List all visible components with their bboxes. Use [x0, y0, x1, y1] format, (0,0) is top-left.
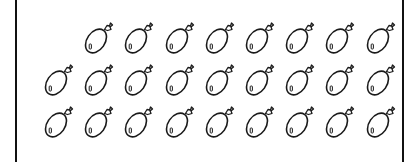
balloon — [204, 62, 236, 98]
balloon-icon — [365, 20, 397, 56]
balloon — [123, 20, 155, 56]
balloon-icon — [284, 20, 316, 56]
balloon-icon — [244, 104, 276, 140]
balloon — [324, 104, 356, 140]
balloon-icon — [244, 62, 276, 98]
balloon-icon — [284, 62, 316, 98]
balloon — [284, 62, 316, 98]
balloon — [164, 104, 196, 140]
balloon — [284, 104, 316, 140]
balloon-icon — [204, 20, 236, 56]
balloon — [83, 20, 115, 56]
balloon-icon — [83, 20, 115, 56]
balloon — [204, 20, 236, 56]
balloon-icon — [284, 104, 316, 140]
balloon — [43, 104, 75, 140]
balloon-row-3 — [43, 104, 413, 144]
balloon — [324, 20, 356, 56]
balloon-icon — [324, 62, 356, 98]
balloon-icon — [83, 104, 115, 140]
balloon-icon — [123, 104, 155, 140]
balloon — [164, 62, 196, 98]
balloon — [244, 20, 276, 56]
balloon-icon — [164, 104, 196, 140]
balloon-icon — [324, 20, 356, 56]
balloon-icon — [83, 62, 115, 98]
balloon-icon — [244, 20, 276, 56]
balloon-icon — [324, 104, 356, 140]
balloon — [365, 20, 397, 56]
frame-left-border — [15, 0, 17, 162]
balloon — [83, 62, 115, 98]
balloon-icon — [123, 20, 155, 56]
balloon — [123, 104, 155, 140]
balloon-icon — [43, 104, 75, 140]
balloon — [204, 104, 236, 140]
balloon — [284, 20, 316, 56]
balloon — [43, 62, 75, 98]
balloon — [244, 104, 276, 140]
balloon-icon — [43, 62, 75, 98]
balloon — [164, 20, 196, 56]
balloon-icon — [365, 104, 397, 140]
balloon-icon — [123, 62, 155, 98]
balloon — [365, 62, 397, 98]
balloon-icon — [365, 62, 397, 98]
balloon-icon — [204, 104, 236, 140]
balloon — [123, 62, 155, 98]
balloon-row-2 — [43, 62, 413, 102]
balloon-row-1 — [43, 20, 413, 60]
balloon — [365, 104, 397, 140]
balloon — [244, 62, 276, 98]
balloon-icon — [164, 20, 196, 56]
balloon — [83, 104, 115, 140]
balloon-icon — [204, 62, 236, 98]
balloon-icon — [164, 62, 196, 98]
balloon — [324, 62, 356, 98]
